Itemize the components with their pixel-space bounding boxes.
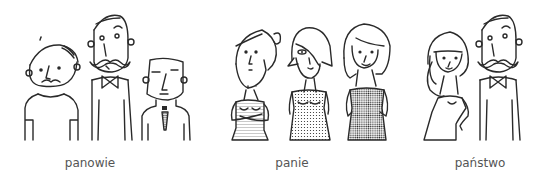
man-with-tie-figure [142,58,190,140]
woman-with-long-hair-figure [344,24,390,140]
woman-long-hair-figure [424,32,468,140]
man-with-mustache-bowtie-figure [88,15,134,140]
woman-with-bun-figure [232,30,281,140]
woman-with-bob-figure [288,28,332,140]
man-with-beret-figure [25,37,80,140]
caption-panie: panie [262,156,322,170]
caption-panowie: panowie [40,156,140,170]
man-with-mustache-bowtie-figure-2 [476,15,522,140]
illustration [0,0,544,182]
caption-panstwo: państwo [440,156,520,170]
